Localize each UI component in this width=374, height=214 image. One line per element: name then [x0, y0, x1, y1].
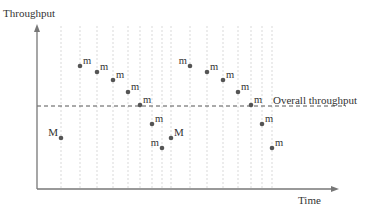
x-axis-arrow-icon	[331, 186, 339, 192]
data-points: MmmmmmmmMmmmmmmm	[48, 55, 283, 150]
overall-throughput-label: Overall throughput	[273, 94, 357, 106]
point-label: m	[254, 94, 262, 105]
data-point	[59, 136, 64, 141]
point-label: m	[210, 61, 218, 72]
data-point	[78, 64, 83, 69]
point-label: m	[275, 137, 283, 148]
point-label: m	[131, 81, 139, 92]
data-point	[111, 78, 116, 83]
y-axis-label: Throughput	[3, 7, 55, 19]
data-point	[138, 103, 143, 108]
x-axis-label: Time	[298, 194, 321, 206]
data-point	[169, 136, 174, 141]
data-point	[160, 146, 165, 151]
data-point	[221, 78, 226, 83]
point-label: m	[179, 55, 187, 66]
point-label: m	[155, 113, 163, 124]
point-label: m	[265, 113, 273, 124]
point-label: M	[174, 126, 184, 138]
data-point	[205, 70, 210, 75]
point-label: m	[226, 69, 234, 80]
data-point	[249, 103, 254, 108]
y-axis-arrow-icon	[34, 24, 40, 32]
vertical-gridlines	[61, 26, 272, 189]
point-label: m	[83, 55, 91, 66]
point-label: m	[116, 69, 124, 80]
point-label: m	[151, 137, 159, 148]
data-point	[150, 122, 155, 127]
data-point	[236, 90, 241, 95]
data-point	[260, 122, 265, 127]
data-point	[126, 90, 131, 95]
data-point	[188, 64, 193, 69]
data-point	[270, 146, 275, 151]
throughput-diagram: Throughput Time Overall throughput Mmmmm…	[0, 0, 374, 214]
data-point	[95, 70, 100, 75]
point-label: M	[48, 126, 58, 138]
point-label: m	[100, 61, 108, 72]
point-label: m	[143, 94, 151, 105]
point-label: m	[241, 81, 249, 92]
